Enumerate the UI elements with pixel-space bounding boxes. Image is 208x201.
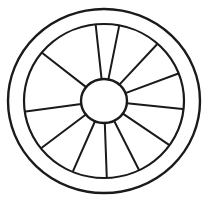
wheel-group [8, 9, 200, 193]
spoke-3-line [119, 45, 156, 85]
illustration-canvas [0, 0, 208, 201]
inner-rim-circle-icon [24, 24, 184, 178]
spoke-4-line [125, 74, 177, 93]
spoke-9-line [73, 121, 95, 171]
spoke-1-line [96, 25, 102, 79]
spoke-10-line [42, 115, 86, 148]
spoke-2-line [108, 26, 119, 79]
spoke-11-line [26, 104, 81, 112]
spoke-layer [26, 25, 183, 177]
spoke-7-line [114, 121, 139, 170]
hub-circle-icon [81, 79, 127, 123]
spoke-6-line [123, 114, 169, 145]
spoke-8-line [105, 123, 107, 177]
outer-rim-circle-icon [8, 9, 200, 193]
spoke-12-line [43, 53, 87, 87]
wheel-drawing [0, 0, 208, 201]
spoke-5-line [127, 103, 183, 109]
